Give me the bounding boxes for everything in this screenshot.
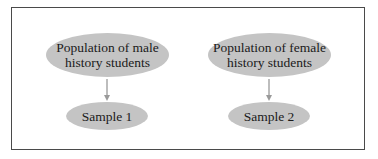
diagram-frame (11, 7, 365, 150)
sample-1-label: Sample 1 (82, 109, 133, 124)
population-female-label-line1: Population of female (213, 40, 326, 55)
population-female-node: Population of female history students (208, 33, 331, 77)
sample-2-node: Sample 2 (228, 102, 310, 130)
population-male-label-line1: Population of male (56, 40, 159, 55)
population-female-label-line2: history students (213, 55, 326, 70)
sample-1-node: Sample 1 (66, 102, 148, 130)
population-male-node: Population of male history students (46, 33, 169, 77)
population-male-label-line2: history students (56, 55, 159, 70)
sample-2-label: Sample 2 (244, 109, 295, 124)
